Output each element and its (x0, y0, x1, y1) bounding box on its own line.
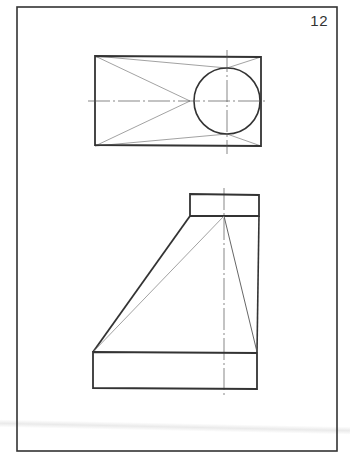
front-view (93, 188, 259, 396)
drawing-sheet: 12 (0, 0, 350, 463)
top-block (190, 194, 259, 216)
construction-line (227, 57, 261, 68)
construction-line (95, 56, 227, 68)
technical-drawing (0, 0, 350, 463)
base-block (93, 352, 257, 389)
construction-line (95, 134, 227, 146)
top-view (88, 50, 268, 154)
page-number: 12 (310, 12, 328, 29)
construction-line (95, 56, 190, 101)
slanted-edge (93, 216, 190, 352)
construction-line (95, 101, 190, 146)
construction-line (227, 134, 261, 146)
construction-line (93, 216, 224, 352)
right-edge (257, 216, 259, 352)
construction-line (224, 216, 257, 352)
sheet-frame (17, 7, 337, 451)
